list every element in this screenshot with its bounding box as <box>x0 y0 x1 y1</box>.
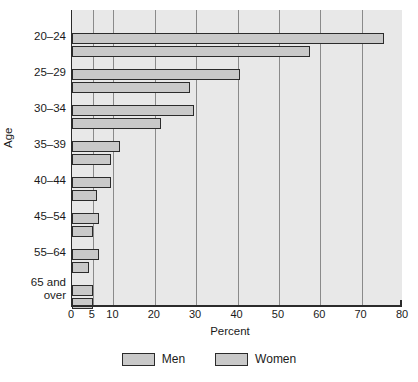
gridline-60 <box>320 10 321 305</box>
y-tick-label-5: 45–54 <box>34 210 66 223</box>
y-axis-title: Age <box>2 128 14 148</box>
gridline-70 <box>362 10 363 305</box>
x-axis-cap-right <box>400 300 402 306</box>
bar-women-2 <box>72 118 161 129</box>
bar-men-1 <box>72 69 240 80</box>
legend-label-men: Men <box>162 352 185 366</box>
y-tick-label-7: 65 and over <box>31 276 66 301</box>
y-tick-label-4: 40–44 <box>34 174 66 187</box>
x-tick-label-70: 70 <box>346 308 376 320</box>
x-axis-line <box>71 305 402 307</box>
x-tick-label-30: 30 <box>180 308 210 320</box>
x-tick-label-40: 40 <box>222 308 252 320</box>
x-tick-label-60: 60 <box>304 308 334 320</box>
bar-women-3 <box>72 154 111 165</box>
y-tick-label-0: 20–24 <box>34 30 66 43</box>
bar-men-7 <box>72 285 93 296</box>
y-tick-label-1: 25–29 <box>34 66 66 79</box>
x-tick-label-10: 10 <box>97 308 127 320</box>
legend-entry-men: Men <box>122 352 185 366</box>
bar-men-2 <box>72 105 194 116</box>
bar-women-5 <box>72 226 93 237</box>
bar-men-0 <box>72 33 384 44</box>
y-tick-label-6: 55–64 <box>34 246 66 259</box>
bar-men-6 <box>72 249 99 260</box>
plot-area <box>71 10 402 305</box>
legend-swatch-women-icon <box>215 353 248 366</box>
x-tick-label-50: 50 <box>263 308 293 320</box>
bar-men-3 <box>72 141 120 152</box>
x-tick-label-80: 80 <box>387 308 417 320</box>
bar-men-5 <box>72 213 99 224</box>
bar-women-0 <box>72 46 310 57</box>
x-axis-cap-left <box>71 300 73 306</box>
bar-women-1 <box>72 82 190 93</box>
chart-legend: Men Women <box>0 352 418 366</box>
legend-label-women: Women <box>255 352 296 366</box>
bar-men-4 <box>72 177 111 188</box>
bar-women-7 <box>72 298 93 309</box>
bar-women-4 <box>72 190 97 201</box>
x-tick-label-20: 20 <box>139 308 169 320</box>
x-axis-title: Percent <box>0 325 418 337</box>
legend-swatch-men-icon <box>122 353 155 366</box>
legend-entry-women: Women <box>215 352 296 366</box>
bar-chart: Age 20–24 25–29 30–34 35–39 40–44 45–54 … <box>0 0 418 382</box>
y-tick-label-3: 35–39 <box>34 138 66 151</box>
y-tick-label-2: 30–34 <box>34 102 66 115</box>
bar-women-6 <box>72 262 89 273</box>
